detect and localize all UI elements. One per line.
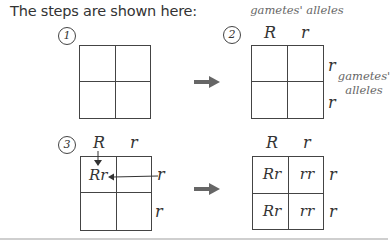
gametes-alleles-side-caption: gametes' alleles: [336, 69, 392, 97]
punnett-cell: Rr: [262, 165, 282, 183]
col-allele: r: [301, 23, 309, 42]
step-2-number: 2: [223, 26, 241, 44]
punnett-square-step-1: [79, 45, 151, 119]
arrow-down-icon: [93, 151, 103, 167]
col-allele: r: [303, 133, 311, 152]
step-3-number: 3: [58, 136, 76, 154]
row-allele: r: [157, 165, 165, 184]
row-allele: r: [328, 56, 336, 75]
col-allele: R: [93, 133, 105, 152]
row-allele: r: [155, 202, 163, 221]
arrow-right-icon: [194, 76, 220, 88]
gametes-alleles-top-caption: gametes' alleles: [247, 3, 347, 17]
col-allele: R: [264, 23, 276, 42]
divider: [0, 238, 388, 240]
punnett-cell: Rr: [262, 202, 282, 220]
arrow-right-icon: [194, 183, 220, 195]
row-allele: r: [329, 202, 337, 221]
punnett-square-step-2: [251, 45, 324, 119]
row-allele: r: [329, 165, 337, 184]
punnett-cell: Rr: [89, 166, 107, 184]
punnett-cell: rr: [299, 165, 315, 183]
col-allele: R: [266, 133, 278, 152]
punnett-cell: rr: [299, 202, 315, 220]
step-1-number: 1: [58, 27, 76, 45]
col-allele: r: [130, 133, 138, 152]
arrow-left-icon: [108, 172, 158, 182]
intro-text: The steps are shown here:: [10, 3, 197, 19]
row-allele: r: [328, 93, 336, 112]
